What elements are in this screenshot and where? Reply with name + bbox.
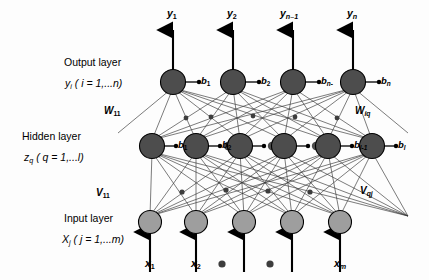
output-bias-b2: b2 bbox=[261, 76, 270, 87]
input-layer-notation: Xj ( j = 1,...m) bbox=[62, 234, 124, 247]
output-bias-b1: b1 bbox=[201, 76, 210, 87]
weight-label-w11: W11 bbox=[104, 106, 121, 117]
input-label-xm: xm bbox=[334, 258, 346, 271]
edges-input-hidden bbox=[150, 152, 408, 216]
output-arrows bbox=[173, 30, 353, 72]
hidden-bias-bl-1: bl-1 bbox=[354, 140, 367, 151]
input-row-ellipsis-dots bbox=[218, 260, 273, 267]
output-bias-bn: bn bbox=[381, 76, 391, 87]
hidden-layer-title: Hidden layer bbox=[22, 131, 81, 142]
hidden-bias-b2: b2 bbox=[222, 140, 231, 151]
output-label-yn-1: yn–1 bbox=[280, 8, 298, 21]
hidden-bias-b1: b1 bbox=[178, 140, 187, 151]
output-label-y1: y1 bbox=[167, 8, 177, 21]
input-label-x2: x2 bbox=[191, 258, 201, 271]
output-label-y2: y2 bbox=[227, 8, 237, 21]
weight-label-vqj: Vqj bbox=[360, 186, 373, 197]
weight-label-v11: V11 bbox=[96, 188, 110, 199]
neural-network-diagram: y1 y2 yn–1 yn Output layer yi ( i = 1,..… bbox=[0, 0, 429, 280]
hidden-layer-notation: zq ( q = 1,...l) bbox=[24, 152, 84, 165]
input-label-x1: x1 bbox=[145, 258, 155, 271]
output-layer-title: Output layer bbox=[64, 57, 121, 68]
input-layer-title: Input layer bbox=[64, 213, 113, 224]
output-bias-bn-1: bn- bbox=[321, 76, 333, 87]
hidden-bias-bl: bl bbox=[398, 140, 406, 151]
output-layer-notation: yi ( i = 1,...n) bbox=[65, 78, 122, 91]
input-nodes bbox=[139, 211, 352, 234]
weight-label-wiq: Wiq bbox=[355, 106, 371, 117]
input-arrows bbox=[150, 232, 340, 272]
output-label-yn: yn bbox=[347, 8, 357, 21]
